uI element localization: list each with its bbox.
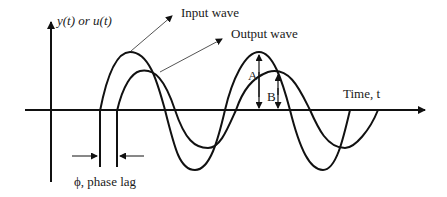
y-axis-label: y(t) or u(t) bbox=[55, 13, 112, 28]
phase-lag-label: ϕ, phase lag bbox=[74, 174, 137, 189]
output-wave-pointer bbox=[160, 39, 222, 72]
amplitude-a-label: A bbox=[248, 68, 258, 83]
amplitude-b-label: B bbox=[267, 89, 276, 104]
input-wave-pointer bbox=[131, 16, 172, 51]
x-axis-label: Time, t bbox=[343, 86, 380, 101]
output-wave-label: Output wave bbox=[231, 26, 298, 41]
phase-lag-diagram: y(t) or u(t) Input wave Output wave A B … bbox=[0, 0, 447, 197]
input-wave-label: Input wave bbox=[181, 5, 239, 20]
